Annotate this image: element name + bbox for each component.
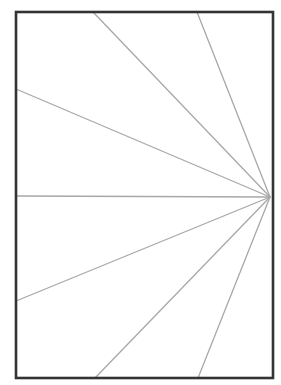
ray-line-left-4	[16, 196, 270, 197]
ray-line-bottom-6	[95, 197, 270, 378]
diagram-canvas	[0, 0, 281, 385]
ray-line-top-2	[197, 12, 270, 197]
ray-group	[16, 12, 270, 378]
rectangle-frame	[16, 12, 273, 378]
ray-line-bottom-7	[198, 197, 270, 378]
ray-line-left-3	[16, 89, 270, 197]
ray-line-left-5	[16, 197, 270, 301]
ray-line-top-1	[93, 12, 270, 197]
